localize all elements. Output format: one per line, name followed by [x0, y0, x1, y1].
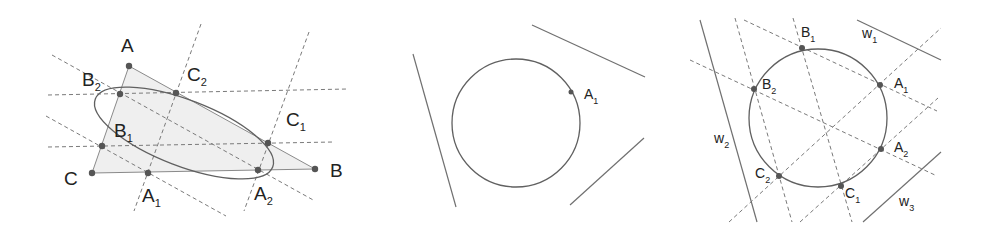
point-b1 — [799, 45, 805, 51]
point-label-b: B — [330, 160, 343, 181]
point-label-c1: C1 — [845, 185, 860, 205]
point-label-a1: A1 — [584, 86, 598, 106]
dashed-line — [729, 28, 941, 222]
circle — [452, 59, 580, 187]
point-a2 — [878, 146, 884, 152]
point-b2 — [751, 86, 757, 92]
point-b — [312, 166, 318, 172]
point-c1 — [265, 140, 271, 146]
point-label-b2: B2 — [762, 76, 776, 96]
point-label-w2: w2 — [713, 130, 729, 150]
point-label-c2: C2 — [755, 165, 770, 185]
panel-triangle-ellipse: ABCB2C2C1B1A1A2 — [46, 24, 348, 216]
point-label-a: A — [121, 35, 134, 56]
panel-circle-three-lines: A1 — [413, 25, 645, 207]
panel-circle-w-lines: w1w2w3 B1B2A1A2C2C1 — [690, 18, 941, 222]
dashed-line — [735, 18, 792, 222]
tangent-line — [413, 54, 456, 207]
point-c2 — [776, 173, 782, 179]
circle — [749, 49, 887, 187]
point-b2 — [117, 91, 123, 97]
point-label-a2: A2 — [254, 183, 273, 207]
tangent-line — [532, 25, 645, 77]
point-c2 — [173, 90, 179, 96]
points-group: B1B2A1A2C2C1 — [751, 24, 908, 205]
line-w3 — [863, 152, 941, 222]
lines-group: w1w2w3 — [700, 20, 941, 222]
points-group: A1 — [569, 86, 599, 106]
dashed-line — [800, 98, 938, 222]
point-label-a1: A1 — [142, 185, 161, 209]
point-a1 — [877, 82, 883, 88]
tangent-line — [570, 138, 644, 205]
point-a2 — [255, 167, 261, 173]
point-label-a2: A2 — [894, 139, 908, 159]
point-label-c1: C1 — [286, 109, 306, 133]
point-label-c: C — [64, 168, 78, 189]
lines-group — [413, 25, 645, 207]
point-a1 — [145, 170, 151, 176]
point-b1 — [99, 143, 105, 149]
point-label-w3: w3 — [898, 193, 914, 213]
geometry-diagram: ABCB2C2C1B1A1A2 A1 w1w2w3 B1B2A1A2C2C1 — [0, 0, 984, 238]
point-label-b2: B2 — [82, 69, 101, 93]
point-a1 — [569, 90, 574, 95]
point-c1 — [838, 183, 844, 189]
point-c — [89, 170, 95, 176]
point-label-b1: B1 — [801, 24, 815, 44]
point-label-c2: C2 — [187, 64, 207, 88]
point-a — [126, 63, 132, 69]
diagram-canvas: ABCB2C2C1B1A1A2 A1 w1w2w3 B1B2A1A2C2C1 — [0, 0, 984, 238]
